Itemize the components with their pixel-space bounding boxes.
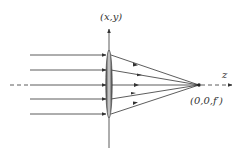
optical-axis-label: z xyxy=(221,69,228,80)
incoming-rays xyxy=(30,55,106,114)
refracted-ray-arrows xyxy=(131,63,142,106)
refracted-rays xyxy=(111,55,199,114)
lens xyxy=(106,50,112,118)
focal-point-label: (0,0,f′) xyxy=(190,95,223,106)
transverse-axis-label: (x,y) xyxy=(100,11,122,22)
lens-diagram: (x,y) z (0,0,f′) xyxy=(0,0,246,156)
focal-point xyxy=(197,83,201,87)
